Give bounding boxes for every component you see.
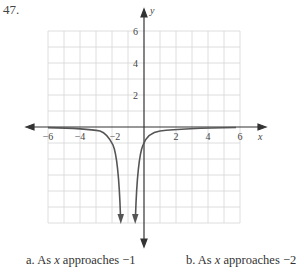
x-tick-6: 6: [238, 131, 243, 142]
question-b-letter: b.: [186, 253, 195, 267]
y-tick-2: 2: [133, 90, 138, 101]
question-a: a. As x approaches −1: [26, 253, 136, 268]
question-b: b. As x approaches −2: [186, 253, 296, 268]
x-axis-label: x: [257, 131, 263, 142]
x-tick-neg4: −4: [75, 131, 86, 142]
graph: −6 −4 −2 2 4 6 6 4 2 y x: [0, 0, 304, 278]
question-a-prefix: As: [37, 253, 54, 267]
tick-labels: −6 −4 −2 2 4 6 6 4 2 y x: [43, 5, 263, 142]
x-axis-right-arrow-icon: [258, 124, 266, 130]
y-tick-4: 4: [133, 58, 138, 69]
question-a-suffix: approaches −1: [60, 253, 136, 267]
y-axis-down-arrow-icon: [141, 239, 147, 247]
question-a-letter: a.: [26, 253, 35, 267]
left-branch-down-arrow-icon: [118, 214, 125, 224]
y-axis-label: y: [149, 5, 155, 16]
question-b-suffix: approaches −2: [220, 253, 296, 267]
y-tick-6: 6: [133, 26, 138, 37]
x-axis-left-arrow-icon: [26, 124, 34, 130]
right-branch: [136, 128, 237, 217]
x-tick-neg6: −6: [43, 131, 54, 142]
x-tick-2: 2: [174, 131, 179, 142]
y-axis-up-arrow-icon: [141, 9, 147, 17]
question-b-prefix: As: [198, 253, 215, 267]
right-branch-down-arrow-icon: [132, 214, 139, 224]
x-tick-4: 4: [206, 131, 211, 142]
